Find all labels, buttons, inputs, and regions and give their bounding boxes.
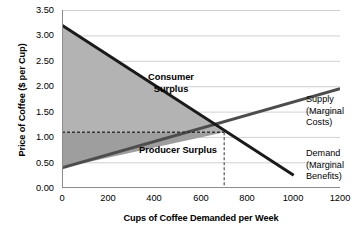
x-axis-tick-label: 1200 [320,193,360,203]
y-axis-tick-label: 2.00 [0,81,54,91]
producer-surplus-label: Producer Surplus [126,144,230,156]
x-axis-tick-label: 200 [88,193,128,203]
y-axis-tick-label: 1.00 [0,132,54,142]
supply-series-label: Supply (Marginal Costs) [306,94,344,129]
consumer-surplus-label: Consumer Surplus [132,71,210,95]
supply-demand-chart: Price of Coffee ($ per Cup) 3.50 3.00 2.… [0,0,361,235]
y-axis-tick-label: 0.00 [0,183,54,193]
x-axis-title: Cups of Coffee Demanded per Week [62,213,340,223]
x-axis-tick-label: 0 [42,193,82,203]
x-axis-tick-label: 400 [134,193,174,203]
demand-series-label: Demand (Marginal Benefits) [306,148,344,183]
y-axis-tick-label: 0.50 [0,158,54,168]
x-axis-tick-label: 600 [181,193,221,203]
y-axis-title: Price of Coffee ($ per Cup) [17,20,27,180]
x-axis-tick-label: 800 [227,193,267,203]
x-axis-tick-label: 1000 [273,193,313,203]
y-axis-tick-label: 1.50 [0,107,54,117]
y-axis-tick-label: 3.50 [0,5,54,15]
y-axis-tick-label: 2.50 [0,56,54,66]
y-axis-tick-label: 3.00 [0,30,54,40]
plot-area: Consumer Surplus Producer Surplus Supply… [62,10,340,188]
